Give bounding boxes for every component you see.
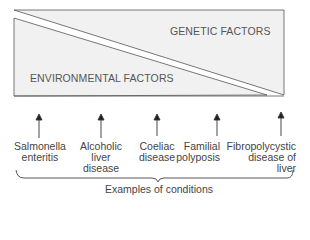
condition-salmonella: Salmonella enteritis bbox=[9, 141, 71, 163]
arrows bbox=[36, 112, 284, 138]
condition-alcoholic-liver: Alcoholic liver disease bbox=[76, 141, 126, 174]
condition-familial-polyposis: Familial polyposis bbox=[172, 141, 220, 163]
genetic-factors-label: GENETIC FACTORS bbox=[170, 25, 271, 37]
brace-caption: Examples of conditions bbox=[100, 184, 218, 195]
environmental-factors-label: ENVIRONMENTAL FACTORS bbox=[30, 72, 174, 84]
condition-fibropolycystic: Fibropolycystic disease of liver bbox=[222, 141, 296, 174]
